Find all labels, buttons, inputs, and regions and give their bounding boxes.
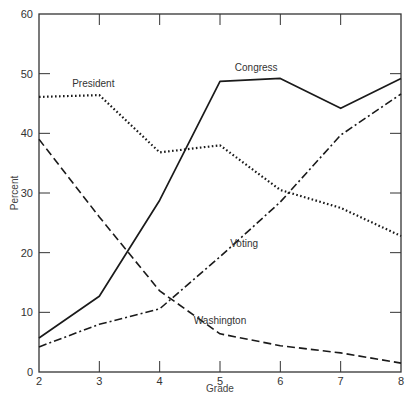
- y-axis-label: Percent: [9, 176, 20, 211]
- series-label-voting: Voting: [230, 238, 258, 249]
- y-tick-label: 50: [21, 68, 33, 80]
- cut-off-caption: [60, 398, 360, 404]
- x-tick-label: 8: [398, 375, 404, 387]
- series-line-president: [39, 95, 401, 236]
- x-tick-label: 6: [277, 375, 283, 387]
- series-labels: CongressPresidentVotingWashington: [72, 62, 277, 327]
- x-tick-label: 4: [157, 375, 163, 387]
- axis-ticks: 01020304050602345678: [21, 8, 404, 387]
- x-axis-label: Grade: [206, 383, 234, 394]
- y-tick-label: 20: [21, 247, 33, 259]
- y-tick-label: 10: [21, 306, 33, 318]
- x-tick-label: 2: [36, 375, 42, 387]
- series-label-president: President: [72, 78, 114, 89]
- line-chart: 01020304050602345678 CongressPresidentVo…: [0, 0, 417, 404]
- y-tick-label: 30: [21, 187, 33, 199]
- y-tick-label: 40: [21, 127, 33, 139]
- series-label-washington: Washington: [194, 315, 246, 326]
- series-label-congress: Congress: [235, 62, 278, 73]
- series-line-voting: [39, 94, 401, 347]
- series-line-washington: [39, 139, 401, 363]
- y-tick-label: 0: [27, 366, 33, 378]
- y-tick-label: 60: [21, 8, 33, 20]
- x-tick-label: 3: [96, 375, 102, 387]
- x-tick-label: 7: [338, 375, 344, 387]
